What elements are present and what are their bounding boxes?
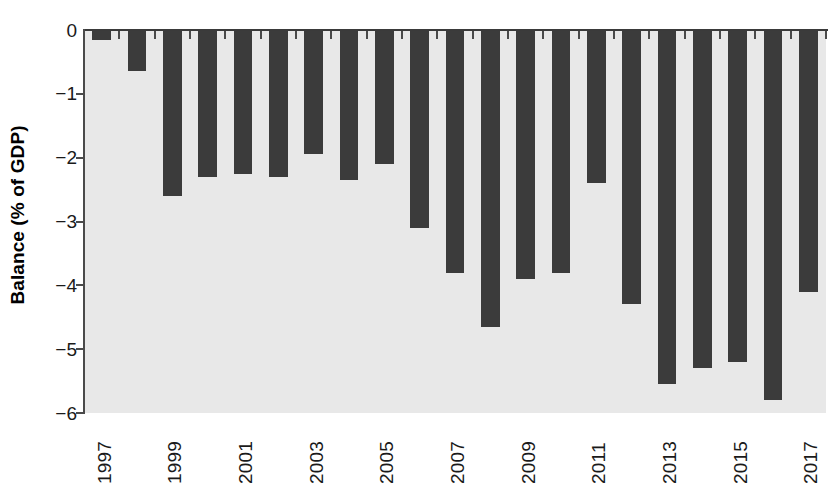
x-tick-mark [154,30,156,39]
bar-2014 [693,30,711,368]
x-tick-label-text: 2001 [235,441,257,484]
x-tick-mark [224,30,226,39]
x-tick-label-text: 2015 [730,441,752,484]
bar-2009 [516,30,534,279]
x-tick-mark [472,30,474,39]
bar-2000 [198,30,216,177]
x-tick-mark [260,30,262,39]
x-tick-mark [401,30,403,39]
x-tick-mark [189,30,191,39]
x-tick-label-text: 1999 [164,441,186,484]
x-tick-mark [542,30,544,39]
zero-baseline [84,29,828,31]
bar-2008 [481,30,499,327]
y-tick-mark [76,284,84,286]
bar-2015 [728,30,746,362]
plot-area [84,30,826,413]
x-tick-mark [295,30,297,39]
x-tick-label-text: 2009 [518,441,540,484]
y-tick-label: 0 [66,21,84,40]
x-tick-mark [648,30,650,39]
x-tick-label-text: 2003 [306,441,328,484]
x-tick-mark [754,30,756,39]
x-tick-mark [507,30,509,39]
bar-chart: Balance (% of GDP) 0−1−2−3−4−5−6 1997199… [0,0,835,488]
x-tick-mark [436,30,438,39]
bar-2004 [340,30,358,180]
x-tick-mark [613,30,615,39]
bar-1999 [163,30,181,196]
x-tick-label-text: 2013 [659,441,681,484]
x-tick-mark [684,30,686,39]
bar-2006 [410,30,428,228]
x-tick-mark [118,30,120,39]
bar-2002 [269,30,287,177]
x-tick-label-text: 1997 [94,441,116,484]
x-tick-label-text: 2005 [376,441,398,484]
x-tick-mark [790,30,792,39]
x-tick-mark [366,30,368,39]
x-tick-mark [330,30,332,39]
bar-1998 [128,30,146,71]
x-tick-mark [578,30,580,39]
bar-2005 [375,30,393,164]
bar-2012 [622,30,640,304]
x-axis-labels: 1997199920012003200520072009201120132015… [0,416,835,488]
y-tick-mark [76,412,84,414]
y-tick-mark [76,93,84,95]
bar-2003 [304,30,322,154]
y-tick-mark [76,348,84,350]
bar-2013 [658,30,676,384]
bar-2001 [234,30,252,174]
x-tick-mark [719,30,721,39]
bar-2007 [446,30,464,273]
x-tick-label-text: 2007 [447,441,469,484]
bar-2011 [587,30,605,183]
x-tick-label-text: 2017 [800,441,822,484]
y-tick-mark [76,221,84,223]
x-tick-mark [825,30,827,39]
bar-2016 [764,30,782,400]
bar-2017 [799,30,817,292]
x-tick-label-text: 2011 [588,442,610,484]
y-tick-mark [76,157,84,159]
bar-2010 [552,30,570,273]
bar-1997 [92,30,110,40]
y-axis-ticks: 0−1−2−3−4−5−6 [0,0,84,488]
